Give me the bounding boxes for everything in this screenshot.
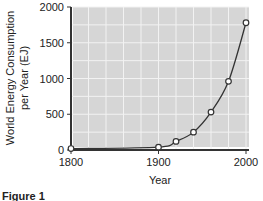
- svg-text:0: 0: [58, 144, 64, 156]
- svg-text:2000: 2000: [40, 1, 64, 13]
- plot-area: [73, 7, 249, 147]
- y-axis-ticks: 0500100015002000: [40, 1, 71, 156]
- y-axis-label-line1: World Energy Consumption: [4, 11, 16, 145]
- x-axis-label: Year: [149, 174, 172, 186]
- svg-text:1900: 1900: [146, 156, 170, 168]
- svg-text:500: 500: [46, 108, 64, 120]
- svg-text:1800: 1800: [59, 156, 83, 168]
- svg-text:1500: 1500: [40, 37, 64, 49]
- y-axis-label-line2: per Year (EJ): [18, 46, 30, 110]
- svg-text:1000: 1000: [40, 73, 64, 85]
- figure-caption: Figure 1: [2, 190, 45, 201]
- energy-chart: 0500100015002000 180019002000 Year World…: [0, 0, 263, 201]
- svg-text:2000: 2000: [234, 156, 258, 168]
- x-axis-ticks: 180019002000: [59, 150, 258, 168]
